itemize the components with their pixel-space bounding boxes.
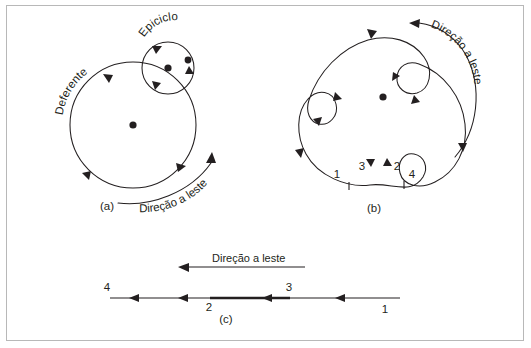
arrow-b-left-lobe bbox=[295, 148, 304, 158]
label-b-3: 3 bbox=[359, 160, 365, 172]
arrow-c-3 bbox=[178, 294, 188, 302]
panel-a-group: Deferente Epiciclo Direção a leste bbox=[53, 10, 216, 214]
arrow-b-top bbox=[367, 29, 377, 39]
epicycle-arrow-right bbox=[185, 66, 194, 74]
arrow-b-loop-bottom-right bbox=[383, 158, 392, 166]
label-c-1: 1 bbox=[382, 303, 388, 315]
epicycle-label-a: Epiciclo bbox=[136, 10, 178, 39]
panel-b-label: (b) bbox=[367, 202, 381, 214]
panel-b-group: 1 3 2 4 Direção a leste (b) bbox=[295, 18, 484, 214]
arrow-b-loop-bottom-left bbox=[366, 159, 375, 167]
planet-dot bbox=[185, 57, 192, 64]
earth-center-dot-b bbox=[379, 93, 386, 100]
arrow-b-loop-right-in bbox=[392, 72, 400, 81]
direction-label-c: Direção a leste bbox=[212, 252, 285, 264]
panel-c-label: (c) bbox=[219, 313, 233, 325]
deferent-arrow-bottomleft bbox=[82, 171, 91, 180]
deferent-label-a: Deferente bbox=[53, 65, 89, 116]
label-b-4: 4 bbox=[409, 168, 416, 180]
arrow-b-loop-right-out bbox=[411, 95, 420, 104]
arrow-c-4 bbox=[129, 294, 139, 302]
epicycle-arrow-bottom bbox=[152, 81, 161, 90]
direction-arc-b-arrowhead bbox=[409, 19, 420, 28]
retrograde-path-b bbox=[299, 38, 466, 187]
arrow-b-loop-left-in bbox=[333, 92, 342, 101]
direction-label-a: Direção a leste bbox=[139, 176, 209, 214]
epicycle-arrow-top bbox=[152, 46, 162, 54]
deferent-arrow-bottomright bbox=[176, 163, 186, 172]
label-c-4: 4 bbox=[104, 281, 111, 293]
label-b-1: 1 bbox=[334, 168, 340, 180]
earth-center-dot-a bbox=[129, 121, 136, 128]
epicycle-center-dot bbox=[164, 64, 171, 71]
direction-arrow-head-c bbox=[178, 263, 189, 272]
label-b-2: 2 bbox=[394, 160, 400, 172]
figure-canvas: Deferente Epiciclo Direção a leste bbox=[0, 0, 531, 348]
deferent-arrow-top bbox=[103, 74, 113, 83]
panel-c-group: Direção a leste 4 2 3 1 bbox=[104, 252, 400, 325]
label-c-2: 2 bbox=[206, 301, 212, 313]
label-c-3: 3 bbox=[286, 281, 292, 293]
epicycle-diagram: Deferente Epiciclo Direção a leste bbox=[0, 0, 531, 348]
direction-arc-a-arrowhead bbox=[206, 152, 216, 163]
arrow-c-1 bbox=[335, 294, 345, 302]
panel-a-label: (a) bbox=[100, 200, 114, 212]
arrow-c-2 bbox=[262, 294, 272, 302]
